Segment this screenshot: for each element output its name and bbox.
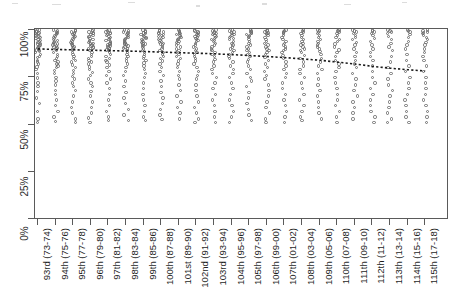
x-tick-label: 105th (97-98) <box>252 228 263 285</box>
x-tick-label: 111th (09-10) <box>358 228 369 284</box>
x-tick-label: 106th (99-00) <box>270 228 281 285</box>
x-tick-label: 103rd (93-94) <box>217 228 228 286</box>
chart-root: 0%25%50%75%100% 93rd (73-74)94th (75-76)… <box>0 0 455 304</box>
trend-line <box>35 29 447 218</box>
scan-artifact-dot <box>196 5 200 7</box>
x-tick-label: 99th (85-86) <box>147 228 158 280</box>
scan-artifact-dot <box>52 4 61 5</box>
x-tick-mark <box>407 219 408 225</box>
scan-artifact-dot <box>128 2 135 3</box>
x-tick-label: 104th (95-96) <box>235 228 246 285</box>
x-tick-mark <box>125 219 126 225</box>
x-tick-label: 94th (75-76) <box>59 228 70 280</box>
y-tick-label: 0% <box>19 217 30 251</box>
x-tick-mark <box>107 219 108 225</box>
scan-artifact-dot <box>402 2 407 3</box>
scan-artifact-dot <box>262 3 267 5</box>
x-tick-mark <box>354 219 355 225</box>
x-tick-mark <box>178 219 179 225</box>
x-tick-label: 97th (81-82) <box>111 228 122 280</box>
x-tick-label: 114th (15-16) <box>411 228 422 284</box>
x-tick-mark <box>389 219 390 225</box>
x-tick-mark <box>283 219 284 225</box>
x-tick-label: 93rd (73-74) <box>41 228 52 280</box>
x-tick-mark <box>336 219 337 225</box>
x-tick-label: 101st (89-90) <box>182 228 193 285</box>
x-tick-mark <box>248 219 249 225</box>
x-tick-mark <box>371 219 372 225</box>
x-tick-label: 102nd (91-92) <box>199 228 210 288</box>
x-tick-mark <box>231 219 232 225</box>
x-tick-label: 112th (11-12) <box>375 228 386 284</box>
x-tick-mark <box>37 219 38 225</box>
y-tick-label: 50% <box>19 122 30 156</box>
x-tick-label: 113th (13-14) <box>393 228 404 284</box>
x-tick-mark <box>143 219 144 225</box>
x-tick-mark <box>424 219 425 225</box>
x-tick-mark <box>160 219 161 225</box>
x-tick-mark <box>213 219 214 225</box>
x-tick-label: 115th (17-18) <box>428 228 439 284</box>
y-tick-label: 25% <box>19 169 30 203</box>
x-tick-label: 100th (87-88) <box>164 228 175 285</box>
plot-area <box>34 28 448 219</box>
x-tick-mark <box>90 219 91 225</box>
y-tick-label: 75% <box>19 75 30 109</box>
x-tick-label: 98th (83-84) <box>129 228 140 280</box>
y-tick-label: 100% <box>19 28 30 62</box>
x-tick-mark <box>319 219 320 225</box>
x-tick-label: 107th (01-02) <box>287 228 298 285</box>
x-tick-mark <box>301 219 302 225</box>
x-tick-label: 95th (77-78) <box>76 228 87 280</box>
x-tick-mark <box>195 219 196 225</box>
x-tick-label: 96th (79-80) <box>94 228 105 280</box>
scan-artifact-dot <box>344 4 351 5</box>
x-tick-label: 110th (07-08) <box>340 228 351 284</box>
x-tick-mark <box>266 219 267 225</box>
x-tick-label: 109th (05-06) <box>323 228 334 285</box>
x-tick-mark <box>72 219 73 225</box>
scan-artifacts <box>0 0 455 10</box>
y-axis: 0%25%50%75%100% <box>0 0 34 304</box>
x-tick-label: 108th (03-04) <box>305 228 316 285</box>
x-tick-mark <box>55 219 56 225</box>
